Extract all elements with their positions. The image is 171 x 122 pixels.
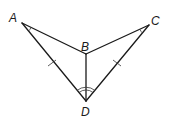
label-b: B [81, 40, 89, 54]
angle-arc-c [140, 30, 143, 34]
label-d: D [81, 105, 90, 119]
segment-ab [22, 23, 86, 54]
label-c: C [151, 14, 160, 28]
geometry-diagram: A B C D [0, 0, 171, 122]
label-a: A [8, 11, 17, 25]
segment-cb [86, 25, 149, 54]
angle-arc-a [29, 28, 32, 32]
